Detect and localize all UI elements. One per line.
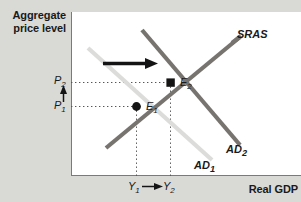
curve-sras	[106, 37, 240, 148]
tick-label-p1: P1	[54, 99, 66, 114]
guide-lines	[71, 83, 171, 177]
tick-label-y1: Y1	[128, 180, 140, 195]
curve-label-ad1: AD1	[194, 159, 215, 174]
tick-label-p1-sub: 1	[61, 105, 65, 114]
curve-label-ad2-text: AD	[226, 143, 242, 155]
tick-label-y1-sub: 1	[135, 186, 139, 195]
marker-e2	[166, 78, 174, 86]
curve-label-ad1-sub: 1	[210, 164, 215, 174]
x-axis-title: Real GDP	[224, 183, 298, 196]
curve-label-ad2: AD2	[226, 143, 247, 158]
output-increase-arrow	[142, 183, 163, 190]
tick-label-p2-sub: 2	[61, 80, 65, 89]
equilibrium-label-e2-sub: 2	[187, 82, 191, 91]
tick-label-y2: Y2	[163, 180, 175, 195]
marker-e1	[132, 102, 141, 111]
equilibrium-label-e1-sub: 1	[153, 106, 157, 115]
equilibrium-label-e2: E2	[180, 76, 192, 91]
curve-label-ad2-sub: 2	[242, 148, 247, 158]
curve-label-sras: SRAS	[237, 28, 268, 40]
tick-label-y2-sub: 2	[170, 186, 174, 195]
tick-label-p2: P2	[54, 74, 66, 89]
curve-label-ad1-text: AD	[194, 159, 210, 171]
ad-sras-diagram: Aggregate price level Real GDP SRAS AD2 …	[0, 0, 301, 202]
y-axis-title: Aggregate price level	[2, 9, 66, 34]
equilibrium-label-e1: E1	[146, 100, 158, 115]
